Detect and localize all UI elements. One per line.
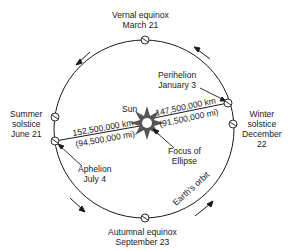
winter-solstice-label: WintersolsticeDecember22 [242, 109, 282, 149]
autumnal-equinox-label: Autumnal equinoxSeptember 23 [108, 227, 177, 247]
summer-solstice-label: SummersolsticeJune 21 [10, 109, 42, 139]
aphelion-label: AphelionJuly 4 [78, 164, 111, 184]
perihelion-label: PerihelionJanuary 3 [158, 70, 196, 90]
vernal-equinox-label: Vernal equinoxMarch 21 [112, 10, 169, 30]
sun-label: Sun [122, 104, 137, 114]
orbit-label: Earth's orbit [171, 169, 212, 207]
focus-label: Focus ofEllipse [168, 146, 201, 166]
